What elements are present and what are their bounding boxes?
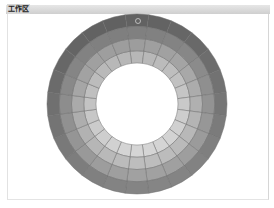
color-swatch-segment[interactable] bbox=[178, 97, 191, 111]
color-swatch-segment[interactable] bbox=[190, 95, 203, 112]
color-swatch-segment[interactable] bbox=[59, 94, 72, 114]
color-swatch-segment[interactable] bbox=[127, 169, 147, 182]
color-swatch-segment[interactable] bbox=[47, 92, 60, 116]
color-swatch-segment[interactable] bbox=[125, 14, 149, 27]
color-swatch-segment[interactable] bbox=[130, 51, 144, 64]
color-swatch-segment[interactable] bbox=[125, 181, 149, 194]
color-swatch-segment[interactable] bbox=[214, 92, 227, 116]
color-swatch-segment[interactable] bbox=[71, 95, 84, 112]
color-wheel-segments[interactable] bbox=[47, 14, 227, 194]
color-swatch-segment[interactable] bbox=[127, 26, 147, 39]
color-swatch-segment[interactable] bbox=[130, 145, 144, 158]
color-wheel[interactable] bbox=[0, 0, 274, 208]
color-swatch-segment[interactable] bbox=[128, 157, 145, 170]
color-swatch-segment[interactable] bbox=[202, 94, 215, 114]
color-swatch-segment[interactable] bbox=[128, 38, 145, 51]
color-swatch-segment[interactable] bbox=[84, 97, 97, 111]
